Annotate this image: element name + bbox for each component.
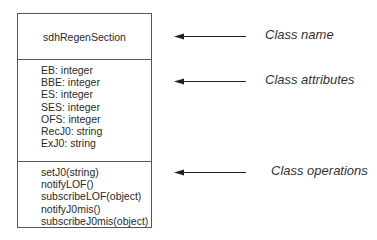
attribute: ExJ0: string (41, 137, 151, 149)
operation: notifyJ0mis() (41, 203, 151, 215)
attribute: OFS: integer (41, 113, 151, 125)
attribute: BBE: integer (41, 76, 151, 88)
class-name: sdhRegenSection (43, 31, 126, 43)
operation: setJ0(string) (41, 166, 151, 178)
class-operations-compartment: setJ0(string) notifyLOF() subscribeLOF(o… (18, 162, 151, 227)
operation: subscribeLOF(object) (41, 190, 151, 202)
uml-class-box: sdhRegenSection EB: integer BBE: integer… (17, 13, 152, 228)
class-name-compartment: sdhRegenSection (18, 14, 151, 60)
operation: notifyLOF() (41, 178, 151, 190)
class-attributes-label: Class attributes (265, 72, 355, 87)
left-arrow-icon (174, 168, 246, 177)
class-operations-label: Class operations (271, 163, 368, 178)
attribute: RecJ0: string (41, 125, 151, 137)
attribute: SES: integer (41, 101, 151, 113)
attribute: EB: integer (41, 64, 151, 76)
operation: subscribeJ0mis(object) (41, 215, 151, 227)
attribute: ES: integer (41, 88, 151, 100)
class-name-label: Class name (265, 27, 334, 42)
class-attributes-compartment: EB: integer BBE: integer ES: integer SES… (18, 60, 151, 162)
left-arrow-icon (174, 32, 246, 41)
left-arrow-icon (174, 77, 246, 86)
